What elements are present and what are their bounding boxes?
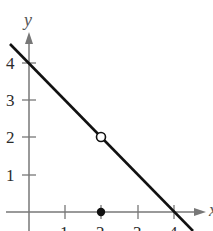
- x-tick-label-1: 1: [60, 223, 69, 231]
- open-circle-point: [97, 133, 106, 142]
- y-tick-label-4: 4: [6, 54, 15, 73]
- y-axis-label: y: [22, 10, 32, 30]
- x-tick-label-2: 2: [96, 223, 105, 231]
- closed-point: [97, 208, 105, 216]
- y-tick-label-2: 2: [6, 128, 15, 147]
- x-axis-label: x: [208, 200, 213, 220]
- y-tick-label-3: 3: [6, 91, 15, 110]
- function-graph: y x 4 3 2 1 1 2 3 4: [0, 0, 213, 231]
- x-axis-arrow-icon: [194, 208, 206, 216]
- y-tick-label-1: 1: [6, 166, 15, 185]
- y-axis-arrow-icon: [25, 32, 33, 44]
- x-tick-label-4: 4: [169, 223, 178, 231]
- x-tick-label-3: 3: [133, 223, 142, 231]
